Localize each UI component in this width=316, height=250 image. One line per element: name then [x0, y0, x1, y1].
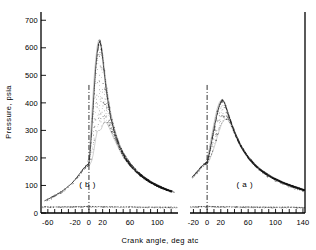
x-axis-tick-label: 100: [151, 218, 164, 227]
y-axis-title: Pressure, psia: [4, 85, 13, 139]
scatter-upper-envelope: [88, 40, 172, 191]
x-axis-title: Crank angle, deg atc: [121, 236, 198, 245]
x-axis-tick-label: 0: [205, 218, 209, 227]
y-axis-tick-label: 300: [25, 126, 38, 135]
x-axis-tick-label: 60: [126, 218, 135, 227]
x-axis-tick-label: -20: [70, 218, 81, 227]
x-axis-tick-label: 20: [98, 218, 107, 227]
x-axis-tick-label: -60: [42, 218, 53, 227]
y-axis-tick-label: 500: [25, 71, 38, 80]
y-axis-tick-label: 100: [25, 181, 38, 190]
chart-canvas: 0100200300400500600700-60-2002060100-200…: [0, 0, 316, 250]
x-axis-tick-label: -20: [188, 218, 199, 227]
cycle-scatter-cloud: [206, 101, 305, 191]
x-axis-tick-label: 60: [244, 218, 253, 227]
x-axis-tick-label: 0: [87, 218, 91, 227]
y-axis-tick-label: 700: [25, 16, 38, 25]
x-axis-tick-label: 140: [296, 218, 309, 227]
y-axis-tick-label: 0: [34, 209, 38, 218]
pressure-trace-mean: [192, 100, 304, 191]
y-axis-tick-label: 400: [25, 99, 38, 108]
x-axis-tick-label: 20: [216, 218, 225, 227]
x-axis-tick-label: 100: [269, 218, 282, 227]
panel-label-a: ( a ): [236, 180, 253, 189]
panel-label-b: ( b ): [79, 180, 96, 189]
pressure-crank-angle-figure: 0100200300400500600700-60-2002060100-200…: [0, 0, 316, 250]
pressure-trace-mean: [44, 41, 174, 201]
scatter-lower-envelope: [206, 119, 305, 190]
cycle-scatter-cloud: [89, 40, 172, 192]
y-axis-tick-label: 600: [25, 43, 38, 52]
scatter-upper-envelope: [206, 99, 305, 189]
scatter-lower-envelope: [88, 122, 172, 192]
y-axis-tick-label: 200: [25, 154, 38, 163]
